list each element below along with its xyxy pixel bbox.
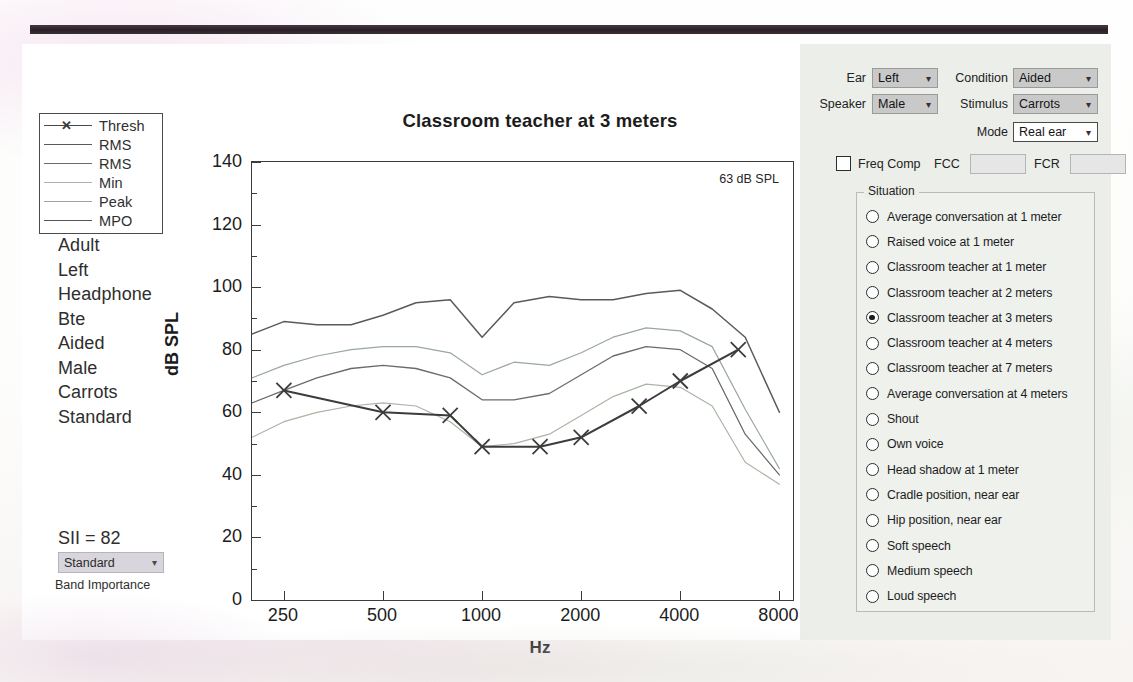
freq-comp-checkbox[interactable]: [836, 156, 851, 171]
situation-option[interactable]: Cradle position, near ear: [856, 482, 1095, 507]
series-mpo-line: [252, 290, 779, 412]
ear-select[interactable]: Left ▾: [872, 68, 938, 88]
radio-button-icon[interactable]: [866, 564, 879, 577]
mode-select[interactable]: Real ear ▾: [1013, 122, 1098, 142]
y-axis-minor-tick: [252, 569, 257, 570]
legend-swatch: [44, 177, 92, 189]
y-axis-tick-label: 20: [198, 526, 242, 547]
situation-option-label: Classroom teacher at 4 meters: [887, 336, 1052, 350]
row-speaker-stimulus: Speaker Male ▾ Stimulus Carrots ▾: [800, 94, 1111, 116]
radio-button-icon[interactable]: [866, 235, 879, 248]
radio-button-icon[interactable]: [866, 387, 879, 400]
stimulus-select[interactable]: Carrots ▾: [1013, 94, 1098, 114]
y-axis-tick-label: 100: [198, 276, 242, 297]
legend-swatch: [44, 196, 92, 208]
mode-value: Real ear: [1019, 125, 1066, 139]
y-axis-tick-label: 60: [198, 401, 242, 422]
y-axis-minor-tick: [252, 318, 257, 319]
radio-button-icon[interactable]: [866, 413, 879, 426]
situation-option-label: Average conversation at 4 meters: [887, 387, 1067, 401]
radio-button-icon[interactable]: [866, 337, 879, 350]
config-line: Left: [58, 258, 208, 283]
row-freq-comp: Freq Comp FCC FCR: [800, 154, 1111, 176]
situation-option-label: Loud speech: [887, 589, 956, 603]
y-axis-tick-label: 140: [198, 151, 242, 172]
situation-option[interactable]: Own voice: [856, 432, 1095, 457]
legend-item: ✕Thresh: [40, 116, 162, 135]
legend-item-label: RMS: [99, 137, 132, 153]
chevron-down-icon: ▾: [1086, 127, 1091, 138]
situation-option[interactable]: Shout: [856, 406, 1095, 431]
y-axis-tick: [252, 475, 261, 476]
speaker-select[interactable]: Male ▾: [872, 94, 938, 114]
situation-group-label: Situation: [864, 184, 919, 198]
y-axis-tick: [252, 537, 261, 538]
radio-button-icon[interactable]: [866, 539, 879, 552]
radio-button-icon[interactable]: [866, 261, 879, 274]
situation-option[interactable]: Classroom teacher at 3 meters: [856, 305, 1095, 330]
legend-swatch: ✕: [44, 120, 92, 132]
radio-button-icon[interactable]: [866, 514, 879, 527]
radio-button-icon[interactable]: [866, 590, 879, 603]
situation-option[interactable]: Average conversation at 4 meters: [856, 381, 1095, 406]
situation-option[interactable]: Classroom teacher at 7 meters: [856, 356, 1095, 381]
y-axis-tick-label: 120: [198, 213, 242, 234]
speaker-label: Speaker: [806, 97, 866, 111]
y-axis-tick: [252, 600, 261, 601]
situation-option[interactable]: Loud speech: [856, 583, 1095, 608]
chart-legend: ✕ThreshRMSRMSMinPeakMPO: [39, 113, 163, 234]
x-axis-tick: [680, 591, 681, 600]
row-ear-condition: Ear Left ▾ Condition Aided ▾: [800, 68, 1111, 90]
situation-option-label: Raised voice at 1 meter: [887, 235, 1014, 249]
measurement-config-list: AdultLeftHeadphoneBteAidedMaleCarrotsSta…: [58, 233, 208, 429]
data-point-marker: [632, 399, 647, 414]
condition-select[interactable]: Aided ▾: [1013, 68, 1098, 88]
y-axis-tick: [252, 350, 261, 351]
situation-option[interactable]: Hip position, near ear: [856, 508, 1095, 533]
y-axis-minor-tick: [252, 256, 257, 257]
plot-area: 63 dB SPL: [251, 161, 794, 601]
radio-button-icon[interactable]: [866, 362, 879, 375]
x-axis-tick: [284, 591, 285, 600]
chart-title: Classroom teacher at 3 meters: [280, 110, 800, 132]
situation-option[interactable]: Classroom teacher at 1 meter: [856, 255, 1095, 280]
situation-option[interactable]: Classroom teacher at 4 meters: [856, 330, 1095, 355]
application-window: ✕ThreshRMSRMSMinPeakMPO AdultLeftHeadpho…: [22, 44, 1111, 640]
legend-item: Peak: [40, 192, 162, 211]
legend-item: MPO: [40, 211, 162, 230]
freq-comp-label: Freq Comp: [858, 157, 934, 171]
legend-item: RMS: [40, 154, 162, 173]
radio-button-icon[interactable]: [866, 311, 879, 324]
config-line: Headphone: [58, 282, 208, 307]
fcc-input[interactable]: [970, 154, 1026, 174]
y-axis-tick-label: 80: [198, 338, 242, 359]
fcr-input[interactable]: [1070, 154, 1126, 174]
situation-option-label: Shout: [887, 412, 919, 426]
situation-option[interactable]: Classroom teacher at 2 meters: [856, 280, 1095, 305]
fcc-label: FCC: [934, 157, 966, 171]
y-axis-tick-label: 40: [198, 463, 242, 484]
radio-button-icon[interactable]: [866, 438, 879, 451]
situation-option[interactable]: Average conversation at 1 meter: [856, 204, 1095, 229]
situation-option-label: Cradle position, near ear: [887, 488, 1019, 502]
x-axis-tick: [581, 591, 582, 600]
situation-option[interactable]: Raised voice at 1 meter: [856, 229, 1095, 254]
control-panel: Ear Left ▾ Condition Aided ▾ Speaker Mal…: [800, 44, 1111, 640]
band-importance-select[interactable]: Standard ▾: [58, 552, 164, 573]
x-axis-tick-label: 2000: [560, 605, 600, 626]
x-axis-tick-label: 250: [268, 605, 298, 626]
x-axis-tick-label: 8000: [758, 605, 798, 626]
stimulus-label: Stimulus: [942, 97, 1008, 111]
data-point-marker: [731, 342, 746, 357]
situation-option[interactable]: Head shadow at 1 meter: [856, 457, 1095, 482]
radio-button-icon[interactable]: [866, 286, 879, 299]
radio-button-icon[interactable]: [866, 463, 879, 476]
config-line: Carrots: [58, 380, 208, 405]
radio-button-icon[interactable]: [866, 210, 879, 223]
situation-option[interactable]: Medium speech: [856, 558, 1095, 583]
situation-option[interactable]: Soft speech: [856, 533, 1095, 558]
situation-option-label: Head shadow at 1 meter: [887, 463, 1019, 477]
config-line: Adult: [58, 233, 208, 258]
situation-option-label: Classroom teacher at 3 meters: [887, 311, 1052, 325]
radio-button-icon[interactable]: [866, 488, 879, 501]
